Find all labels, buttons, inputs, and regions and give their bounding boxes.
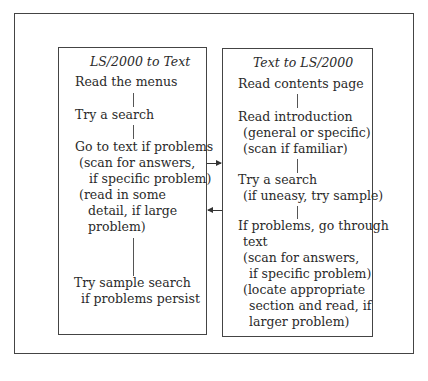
right-step-note: text [243,234,268,250]
connector-line [297,159,298,173]
left-step-note: detail, if large [88,203,177,219]
left-panel-title: LS/2000 to Text [90,54,190,69]
left-step-note: (scan for answers, [79,155,195,171]
right-step-note: (locate appropriate [243,282,365,298]
right-step-read-contents: Read contents page [238,76,364,92]
left-step-try-sample: Try sample search [74,275,191,291]
left-step-note: if problems persist [81,291,200,307]
left-step-note: if specific problem) [89,171,211,187]
connector-line [133,125,134,139]
right-step-note: (general or specific) [243,125,371,141]
right-step-note: if specific problem) [249,266,371,282]
connector-line [133,238,134,276]
left-step-note: problem) [88,219,146,235]
right-step-read-intro: Read introduction [238,109,352,125]
arrow-left-icon [208,210,222,211]
right-step-note: (if uneasy, try sample) [243,188,383,204]
right-step-note: (scan for answers, [243,250,359,266]
connector-line [133,93,134,107]
left-step-try-search: Try a search [75,107,154,123]
left-step-go-to-text: Go to text if problems [75,139,213,155]
left-step-note: (read in some [79,187,166,203]
right-step-if-problems: If problems, go through [238,218,389,234]
right-step-note: larger problem) [249,314,349,330]
right-step-note: section and read, if [249,298,371,314]
right-panel-title: Text to LS/2000 [253,55,353,70]
right-step-note: (scan if familiar) [243,141,348,157]
left-step-read-menus: Read the menus [75,74,177,90]
connector-line [297,94,298,108]
right-step-try-search: Try a search [238,172,317,188]
arrow-right-icon [207,163,221,164]
